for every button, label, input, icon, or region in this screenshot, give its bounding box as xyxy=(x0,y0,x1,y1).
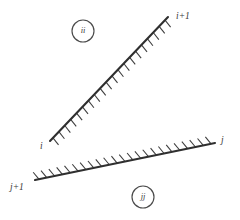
hatch-tick xyxy=(100,88,106,95)
hatch-tick xyxy=(182,142,188,149)
hatch-tick xyxy=(94,95,100,102)
hatch-tick xyxy=(124,64,130,71)
hatch-tick xyxy=(174,143,180,150)
panel-i-group: i i+1 ii xyxy=(40,11,190,151)
hatch-tick xyxy=(96,159,102,166)
figure-canvas: i i+1 ii j+1 j jj xyxy=(0,0,240,220)
hatch-tick xyxy=(165,20,171,27)
panel-j-tag-label: jj xyxy=(140,191,146,201)
panel-i-end-label: i+1 xyxy=(176,11,190,21)
hatch-tick xyxy=(64,166,70,173)
hatch-tick xyxy=(82,107,88,114)
hatch-tick xyxy=(80,163,86,170)
hatch-tick xyxy=(166,145,172,152)
hatch-tick xyxy=(118,70,124,77)
panel-i-hatching xyxy=(53,20,171,145)
hatch-tick xyxy=(41,171,47,178)
hatch-tick xyxy=(127,153,133,160)
panel-j-hatching xyxy=(33,137,211,179)
hatch-tick xyxy=(159,26,165,33)
hatch-tick xyxy=(143,150,149,157)
hatch-tick xyxy=(147,39,153,46)
hatch-tick xyxy=(111,156,117,163)
hatch-tick xyxy=(136,51,142,58)
hatch-tick xyxy=(59,132,65,139)
hatch-tick xyxy=(106,82,112,89)
hatch-tick xyxy=(77,113,83,120)
panel-i-tag-label: ii xyxy=(81,25,86,35)
hatch-tick xyxy=(153,33,159,40)
hatch-tick xyxy=(190,140,196,147)
hatch-tick xyxy=(198,138,204,145)
diagram-svg: i i+1 ii j+1 j jj xyxy=(0,0,240,220)
panel-i-segment xyxy=(50,17,168,141)
hatch-tick xyxy=(88,101,94,108)
hatch-tick xyxy=(158,147,164,154)
hatch-tick xyxy=(71,119,77,126)
hatch-tick xyxy=(104,158,110,165)
hatch-tick xyxy=(112,76,118,83)
panel-j-segment xyxy=(35,143,215,180)
hatch-tick xyxy=(119,155,125,162)
hatch-tick xyxy=(135,151,141,158)
panel-j-end-label: j xyxy=(219,135,224,145)
hatch-tick xyxy=(72,164,78,171)
hatch-tick xyxy=(33,172,39,179)
panel-i-start-label: i xyxy=(40,141,43,151)
hatch-tick xyxy=(151,148,157,155)
hatch-tick xyxy=(57,167,63,174)
hatch-tick xyxy=(141,45,147,52)
hatch-tick xyxy=(49,169,55,176)
hatch-tick xyxy=(205,137,211,144)
panel-j-start-label: j+1 xyxy=(8,182,24,192)
hatch-tick xyxy=(53,138,59,145)
hatch-tick xyxy=(130,57,136,64)
hatch-tick xyxy=(65,126,71,133)
hatch-tick xyxy=(88,161,94,168)
